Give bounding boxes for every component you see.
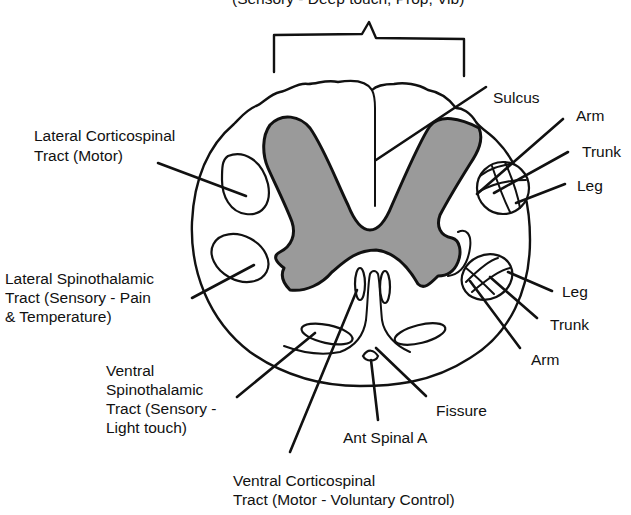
label-ventral-corticospinal-2: Tract (Motor - Voluntary Control) bbox=[233, 491, 455, 508]
label-lower-leg: Leg bbox=[562, 283, 588, 300]
leader-ant-spinal-a bbox=[371, 360, 378, 420]
label-lower-arm: Arm bbox=[531, 351, 559, 368]
lateral-spinothalamic-tract bbox=[203, 224, 277, 291]
ventral-spinothalamic-tract-left bbox=[300, 320, 355, 348]
label-ant-spinal-a: Ant Spinal A bbox=[343, 429, 428, 446]
label-lateral-spinothalamic-1: Lateral Spinothalamic bbox=[5, 270, 154, 287]
label-ventral-spinothalamic-3: Tract (Sensory - bbox=[106, 400, 217, 417]
label-lateral-spinothalamic-3: & Temperature) bbox=[5, 308, 112, 325]
label-ventral-corticospinal-1: Ventral Corticospinal bbox=[233, 472, 375, 489]
dorsal-column-caption: (Sensory - Deep touch, Prop, Vib) bbox=[232, 0, 464, 7]
label-ventral-spinothalamic-1: Ventral bbox=[106, 362, 154, 379]
label-ventral-spinothalamic-2: Spinothalamic bbox=[106, 381, 204, 398]
leader-ventral-spinothalamic bbox=[237, 333, 315, 397]
label-fissure: Fissure bbox=[436, 402, 487, 419]
dorsal-column-bracket bbox=[274, 22, 464, 76]
leader-ventral-corticospinal bbox=[290, 290, 357, 452]
ventral-corticospinal-tract-right bbox=[380, 271, 390, 303]
spinal-cord-diagram: (Sensory - Deep touch, Prop, Vib) bbox=[0, 0, 631, 515]
label-ventral-spinothalamic-4: Light touch) bbox=[106, 419, 187, 436]
label-upper-leg: Leg bbox=[577, 177, 603, 194]
gray-matter bbox=[264, 117, 481, 290]
label-upper-arm: Arm bbox=[576, 107, 604, 124]
ventral-spinothalamic-tract-right bbox=[393, 319, 448, 349]
leader-lower-leg bbox=[508, 272, 552, 291]
right-lower-tract bbox=[454, 246, 520, 308]
label-sulcus: Sulcus bbox=[493, 89, 540, 106]
ventral-corticospinal-tract-left bbox=[355, 268, 365, 300]
label-lower-trunk: Trunk bbox=[550, 316, 589, 333]
posterior-median-sulcus bbox=[372, 90, 375, 206]
label-lateral-corticospinal-2: Tract (Motor) bbox=[34, 147, 123, 164]
label-lateral-spinothalamic-2: Tract (Sensory - Pain bbox=[5, 289, 151, 306]
leader-fissure bbox=[376, 348, 426, 396]
lateral-corticospinal-tract bbox=[222, 154, 269, 214]
label-lateral-corticospinal-1: Lateral Corticospinal bbox=[34, 127, 175, 144]
label-upper-trunk: Trunk bbox=[582, 143, 621, 160]
